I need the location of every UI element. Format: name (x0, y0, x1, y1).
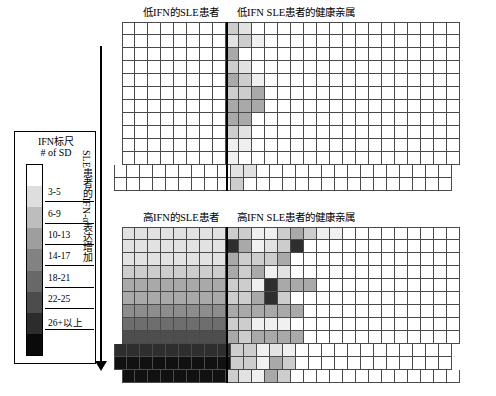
heatmap-row (122, 279, 460, 292)
heatmap-cell (395, 22, 408, 35)
heatmap-cell (369, 152, 382, 165)
heatmap-cell (291, 35, 304, 48)
heatmap-cell (434, 240, 447, 253)
heatmap-row (122, 74, 460, 87)
heatmap-cell (153, 165, 166, 178)
heatmap-cell (317, 35, 330, 48)
heatmap-cell (161, 139, 174, 152)
heatmap-cell (257, 344, 270, 357)
heatmap-row (122, 370, 460, 383)
heatmap-cell (304, 331, 317, 344)
heatmap-cell (408, 279, 421, 292)
heatmap-cell (174, 305, 187, 318)
heatmap-cell (200, 48, 213, 61)
heatmap-cell (174, 100, 187, 113)
heatmap-cell (148, 292, 161, 305)
heatmap-cell (395, 331, 408, 344)
heatmap-cell (135, 126, 148, 139)
heatmap-cell (330, 35, 343, 48)
heatmap-cell (317, 240, 330, 253)
heatmap-cell (369, 240, 382, 253)
heatmap-cell (187, 126, 200, 139)
heatmap-cell (317, 370, 330, 383)
heatmap-cell (395, 266, 408, 279)
heatmap-cell (309, 178, 322, 191)
heatmap-cell (304, 253, 317, 266)
heatmap-cell (369, 305, 382, 318)
heatmap-cell (122, 292, 135, 305)
heatmap-cell (252, 266, 265, 279)
heatmap-cell (135, 22, 148, 35)
heatmap-cell (421, 227, 434, 240)
heatmap-cell (343, 370, 356, 383)
heatmap-cell (278, 227, 291, 240)
heatmap-cell (369, 22, 382, 35)
heatmap-cell (343, 240, 356, 253)
heatmap-cell (291, 318, 304, 331)
heatmap-cell (213, 331, 226, 344)
heatmap-cell (434, 22, 447, 35)
heatmap-cell (135, 87, 148, 100)
heatmap-cell (239, 48, 252, 61)
heatmap-cell (369, 87, 382, 100)
heatmap-cell (187, 152, 200, 165)
heatmap-cell (231, 178, 244, 191)
heatmap-cell (434, 152, 447, 165)
heatmap-cell (265, 87, 278, 100)
heatmap-cell (356, 22, 369, 35)
heatmap-cell (395, 48, 408, 61)
heatmap-cell (447, 35, 460, 48)
heatmap-cell (291, 100, 304, 113)
heatmap-cell (213, 74, 226, 87)
heatmap-cell (252, 22, 265, 35)
heatmap-cell (265, 61, 278, 74)
heatmap-cell (369, 113, 382, 126)
heatmap-cell (278, 113, 291, 126)
heatmap-cell (122, 253, 135, 266)
heatmap-cell (343, 305, 356, 318)
heatmap-cell (148, 22, 161, 35)
heatmap-cell (265, 48, 278, 61)
heatmap-cell (153, 344, 166, 357)
heatmap-cell (122, 318, 135, 331)
heatmap-cell (317, 227, 330, 240)
heatmap-cell (296, 165, 309, 178)
heatmap-cell (335, 178, 348, 191)
heatmap-cell (187, 305, 200, 318)
heatmap-row (122, 305, 460, 318)
heatmap-row (122, 126, 460, 139)
heatmap-cell (408, 370, 421, 383)
heatmap-cell (382, 48, 395, 61)
heatmap-cell (200, 35, 213, 48)
heatmap-cell (213, 35, 226, 48)
heatmap-cell (395, 100, 408, 113)
heatmap-cell (447, 305, 460, 318)
heatmap-cell (252, 240, 265, 253)
heatmap-cell (187, 318, 200, 331)
heatmap-cell (421, 61, 434, 74)
heatmap-cell (278, 100, 291, 113)
heatmap-cell (382, 113, 395, 126)
heatmap-cell (395, 292, 408, 305)
heatmap-cell (278, 292, 291, 305)
heatmap-cell (187, 292, 200, 305)
heatmap-cell (213, 139, 226, 152)
heatmap-cell (317, 100, 330, 113)
heatmap-cell (265, 22, 278, 35)
heatmap-cell (447, 253, 460, 266)
heatmap-cell (239, 139, 252, 152)
heatmap-row (122, 240, 460, 253)
heatmap-cell (317, 61, 330, 74)
heatmap-cell (330, 279, 343, 292)
heatmap-cell (348, 178, 361, 191)
heatmap-cell (421, 331, 434, 344)
heatmap-cell (239, 61, 252, 74)
heatmap-cell (408, 61, 421, 74)
heatmap-row (122, 35, 460, 48)
panel-low-ifn-title-left: 低IFN的SLE患者 (143, 4, 219, 19)
heatmap-cell (140, 344, 153, 357)
heatmap-cell (408, 240, 421, 253)
heatmap-cell (148, 87, 161, 100)
heatmap-cell (252, 318, 265, 331)
heatmap-cell (213, 126, 226, 139)
